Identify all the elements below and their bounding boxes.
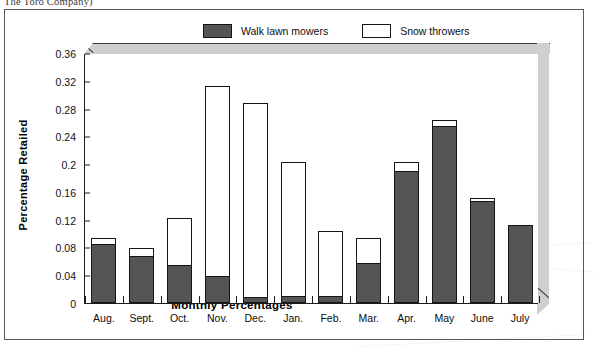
- x-axis-tick-label: Sept.: [129, 312, 154, 324]
- y-axis-label: Percentage Retailed: [17, 119, 29, 230]
- y-axis-tick-label: 0: [70, 298, 85, 310]
- y-axis-tick-label: 0.28: [56, 104, 85, 116]
- x-axis-tick-label: Feb.: [320, 312, 341, 324]
- x-axis-tick-mark: [161, 296, 162, 303]
- x-axis-tick-label: Nov.: [207, 312, 228, 324]
- chart-legend: Walk lawn mowers Snow throwers: [203, 24, 470, 38]
- page-caption: The Toro Company): [4, 0, 93, 7]
- legend-swatch-snow-throwers: [362, 24, 391, 38]
- plot-area: 00.040.080.120.160.20.240.280.320.36 Aug…: [84, 43, 550, 315]
- y-axis-tick-label: 0.08: [56, 242, 85, 254]
- x-axis-tick-label: Dec.: [244, 312, 266, 324]
- x-axis-tick-mark: [501, 296, 502, 303]
- x-axis-tick-label: Aug.: [93, 312, 115, 324]
- y-axis-tick-label: 0.12: [56, 215, 85, 227]
- x-axis-tick-mark: [312, 296, 313, 303]
- y-axis-tick-label: 0.24: [56, 131, 85, 143]
- y-axis-tick-label: 0.04: [56, 270, 85, 282]
- x-axis: Aug.Sept.Oct.Nov.Dec.Jan.Feb.Mar.Apr.May…: [85, 54, 538, 303]
- x-axis-tick-mark: [199, 296, 200, 303]
- x-axis-tick-label: Mar.: [359, 312, 379, 324]
- x-axis-tick-label: Apr.: [397, 312, 416, 324]
- page-crease: [357, 334, 587, 347]
- y-axis-tick-label: 0.16: [56, 187, 85, 199]
- x-axis-tick-label: Oct.: [170, 312, 189, 324]
- x-axis-tick-label: Jan.: [283, 312, 303, 324]
- x-axis-tick-mark: [236, 296, 237, 303]
- x-axis-tick-mark: [85, 296, 86, 303]
- x-axis-tick-mark: [463, 296, 464, 303]
- x-axis-tick-mark: [274, 296, 275, 303]
- legend-label-snow-throwers: Snow throwers: [400, 25, 469, 37]
- plot-canvas: 00.040.080.120.160.20.240.280.320.36 Aug…: [84, 54, 538, 304]
- x-axis-tick-mark: [388, 296, 389, 303]
- y-axis-tick-label: 0.36: [56, 48, 85, 60]
- x-axis-tick-mark: [123, 296, 124, 303]
- plot-wall-right: [537, 43, 550, 315]
- chart-figure-box: Walk lawn mowers Snow throwers Percentag…: [4, 9, 584, 340]
- y-axis-tick-label: 0.32: [56, 76, 85, 88]
- y-axis-tick-label: 0.2: [61, 159, 85, 171]
- x-axis-tick-label: May: [434, 312, 454, 324]
- x-axis-tick-label: June: [471, 312, 494, 324]
- x-axis-tick-label: July: [511, 312, 530, 324]
- legend-swatch-walk-lawn-mowers: [203, 24, 232, 38]
- legend-item-walk-lawn-mowers: Walk lawn mowers: [203, 24, 328, 38]
- x-axis-tick-mark: [350, 296, 351, 303]
- legend-label-walk-lawn-mowers: Walk lawn mowers: [241, 25, 328, 37]
- x-axis-tick-mark: [426, 296, 427, 303]
- legend-item-snow-throwers: Snow throwers: [362, 24, 469, 38]
- x-axis-tick-mark: [539, 296, 540, 303]
